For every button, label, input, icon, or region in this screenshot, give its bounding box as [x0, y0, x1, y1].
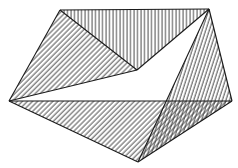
polyhedron-svg — [0, 0, 238, 168]
polyhedron-diagram — [0, 0, 238, 168]
